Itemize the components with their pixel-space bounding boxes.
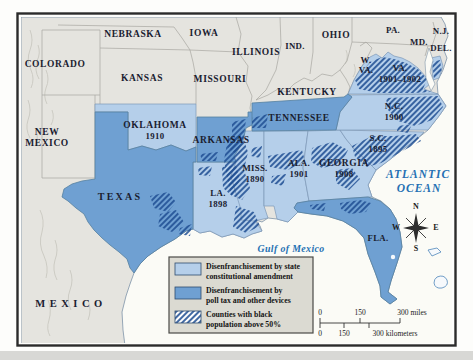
label-new-mexico-line2: MEXICO <box>25 138 69 148</box>
label-colorado: COLORADO <box>25 59 86 69</box>
scale-miles-end: 300 miles <box>397 308 426 317</box>
label-maryland: MD. <box>410 37 428 47</box>
label-alabama: ALA. <box>288 158 310 168</box>
label-louisiana-year: 1898 <box>209 199 228 209</box>
label-mississippi: MISS. <box>242 163 267 173</box>
label-kentucky: KENTUCKY <box>277 87 337 97</box>
label-georgia: GEORGIA <box>319 158 369 168</box>
scale-miles-mid: 150 <box>354 308 366 317</box>
label-alabama-year: 1901 <box>290 169 309 179</box>
scale-km-zero: 0 <box>318 329 322 338</box>
label-south-carolina: S.C. <box>370 133 387 143</box>
label-north-carolina-year: 1900 <box>385 112 404 122</box>
compass-east: E <box>433 223 438 232</box>
legend-item-3-line2: population above 50% <box>206 320 281 329</box>
legend-item-1-line2: constitutional amendment <box>206 272 293 281</box>
label-mississippi-year: 1890 <box>246 174 265 184</box>
compass-north: N <box>413 202 419 211</box>
legend-swatch-poll-tax <box>175 287 201 299</box>
label-west-virginia-line2: VA. <box>359 65 374 75</box>
label-virginia: VA. <box>393 63 408 73</box>
label-oklahoma-year: 1910 <box>146 131 165 141</box>
label-nebraska: NEBRASKA <box>104 29 162 39</box>
lake-okeechobee <box>391 255 395 259</box>
legend-item-2-line1: Disenfranchisement by <box>206 286 283 295</box>
scale-km-mid: 150 <box>338 329 350 338</box>
legend-swatch-amendment <box>175 263 201 275</box>
label-oklahoma: OKLAHOMA <box>123 120 186 130</box>
label-new-jersey: N.J. <box>433 26 449 36</box>
label-mexico: MEXICO <box>35 298 106 309</box>
disenfranchisement-map: COLORADO NEW MEXICO NEBRASKA IOWA KANSAS… <box>0 0 473 360</box>
label-iowa: IOWA <box>190 28 219 38</box>
textbook-map-page: COLORADO NEW MEXICO NEBRASKA IOWA KANSAS… <box>0 0 473 360</box>
label-ocean: OCEAN <box>397 182 442 194</box>
label-gulf-of-mexico: Gulf of Mexico <box>257 243 324 254</box>
label-texas: TEXAS <box>98 191 142 202</box>
legend-item-3-line1: Counties with black <box>206 310 273 319</box>
label-delaware: DEL. <box>430 43 452 53</box>
legend-item-1-line1: Disenfranchisement by state <box>206 262 301 271</box>
legend-item-2-line2: poll tax and other devices <box>206 296 291 305</box>
label-kansas: KANSAS <box>121 73 163 83</box>
label-north-carolina: N.C. <box>385 101 403 111</box>
legend-swatch-hatch <box>175 311 201 323</box>
page-edge-strip <box>0 351 473 360</box>
scale-km-end: 300 kilometers <box>373 329 418 338</box>
label-missouri: MISSOURI <box>194 74 247 84</box>
label-atlantic: ATLANTIC <box>385 168 450 180</box>
label-arkansas: ARKANSAS <box>192 135 249 145</box>
label-west-virginia-line1: W. <box>361 55 372 65</box>
label-illinois: ILLINOIS <box>232 47 280 57</box>
compass-west: W <box>392 223 400 232</box>
label-tennessee: TENNESSEE <box>268 113 329 123</box>
label-virginia-year: 1901–1902 <box>379 74 422 84</box>
label-louisiana: LA. <box>210 188 225 198</box>
label-new-mexico-line1: NEW <box>35 127 60 137</box>
map-legend: Disenfranchisement by state constitution… <box>169 257 313 333</box>
label-south-carolina-year: 1895 <box>369 144 388 154</box>
label-indiana: IND. <box>285 41 305 51</box>
scale-miles-zero: 0 <box>318 308 322 317</box>
label-georgia-year: 1908 <box>335 169 354 179</box>
label-florida: FLA. <box>368 233 389 243</box>
label-pennsylvania: PA. <box>386 25 400 35</box>
map-canvas: COLORADO NEW MEXICO NEBRASKA IOWA KANSAS… <box>21 17 452 346</box>
label-ohio: OHIO <box>322 30 350 40</box>
compass-south: S <box>414 244 419 253</box>
